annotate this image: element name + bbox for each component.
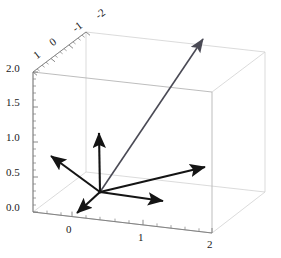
z-axis-tick-label: 1.0 [6,132,20,143]
vector-field [51,39,205,213]
y-axis-major-ticks [33,32,90,75]
y-axis-line [33,32,86,72]
axis-x-front-bottom [33,211,212,233]
vector-right-up [100,167,205,192]
x-axis-tick-label: 0 [66,224,72,235]
box-back-face [86,32,265,192]
axis-y-top-rear [33,32,90,75]
box-edge-top-right-depth [212,52,265,92]
box-edge-bottom-right-depth [212,192,265,233]
box-edge-bottom-left-depth [33,172,86,212]
vector-up-left [51,156,100,192]
vector-right-horizontal [100,192,163,201]
box-connecting-edges [33,32,265,233]
y-axis-minor-ticks [37,35,85,71]
bounding-box [33,32,265,233]
z-axis-tick-label: 0.5 [6,167,20,178]
box-edge-front-top [33,72,212,92]
x-axis-major-ticks [72,212,212,233]
vector-up-z [99,133,100,192]
box-edge-back-top [86,32,265,52]
vector-down-left-short [77,192,100,213]
axis-z-left-vertical [33,72,38,212]
origin-point [98,190,101,193]
z-axis-tick-label: 1.5 [6,97,20,108]
x-axis-line [33,212,212,233]
x-axis-tick-label: 1 [138,232,144,243]
3d-vector-plot [0,0,281,258]
x-axis-tick-label: 2 [207,239,213,250]
z-axis-tick-label: 0.0 [6,202,20,213]
z-axis-tick-label: 2.0 [6,63,20,74]
box-front-face [33,72,212,233]
vector-diagonal-long [100,39,203,192]
